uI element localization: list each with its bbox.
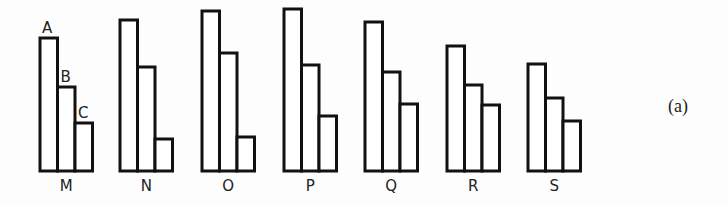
bar-figure: ABCMNOPQRS (a) <box>0 0 727 206</box>
group-label-n: N <box>141 177 152 195</box>
bar-o-a <box>202 11 220 171</box>
bar-s-a <box>528 64 546 171</box>
bar-group-q: Q <box>365 22 418 195</box>
bar-q-b <box>383 72 401 171</box>
bar-group-n: N <box>120 20 173 195</box>
bar-r-c <box>482 105 500 171</box>
bar-p-a <box>284 9 302 171</box>
bar-o-c <box>237 137 255 171</box>
bar-n-c <box>155 139 173 171</box>
bar-letter-a: A <box>42 19 53 37</box>
bar-s-b <box>546 98 564 171</box>
bar-p-c <box>319 116 337 171</box>
group-label-s: S <box>549 177 559 195</box>
bar-group-p: P <box>284 9 337 195</box>
bar-m-b <box>58 87 76 171</box>
group-label-o: O <box>222 177 234 195</box>
bar-s-c <box>563 121 581 171</box>
bar-m-a <box>40 38 58 171</box>
figure-label: (a) <box>668 96 688 117</box>
bar-group-o: O <box>202 11 255 195</box>
group-label-m: M <box>60 177 73 195</box>
bar-q-c <box>400 104 418 171</box>
bar-r-b <box>465 85 483 171</box>
bar-p-b <box>302 65 320 171</box>
bar-n-b <box>138 67 156 171</box>
bar-group-s: S <box>528 64 581 195</box>
bar-o-b <box>220 53 238 171</box>
bar-r-a <box>447 46 465 171</box>
bar-letter-c: C <box>78 104 88 122</box>
grouped-bar-chart: ABCMNOPQRS <box>0 0 727 206</box>
bar-q-a <box>365 22 383 171</box>
group-label-r: R <box>468 177 478 195</box>
bar-n-a <box>120 20 138 171</box>
bar-group-r: R <box>447 46 500 195</box>
bar-m-c <box>75 123 93 171</box>
bar-group-m: ABCM <box>40 19 93 195</box>
bar-letter-b: B <box>61 68 71 86</box>
group-label-q: Q <box>385 177 397 195</box>
group-label-p: P <box>306 177 315 195</box>
